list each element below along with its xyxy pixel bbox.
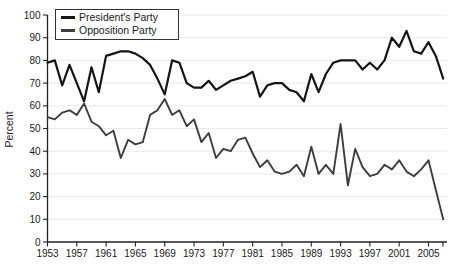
legend-label-presidents-party: President's Party (79, 11, 159, 23)
legend: President's Party Opposition Party (56, 10, 179, 40)
y-tick-label: 0 (35, 237, 41, 248)
gridlines (48, 15, 448, 219)
y-axis-tick-labels: 0102030405060708090100 (24, 10, 41, 248)
y-tick-label: 80 (29, 55, 41, 66)
x-tick-label: 1953 (36, 248, 59, 259)
x-tick-label: 2005 (417, 248, 440, 259)
y-tick-label: 40 (29, 146, 41, 157)
y-tick-label: 70 (29, 78, 41, 89)
x-tick-label: 1961 (95, 248, 118, 259)
y-tick-label: 60 (29, 100, 41, 111)
x-tick-label: 1973 (183, 248, 206, 259)
x-tick-label: 2001 (388, 248, 411, 259)
y-axis-title: Percent (3, 111, 15, 147)
y-tick-label: 90 (29, 32, 41, 43)
x-tick-label: 1989 (300, 248, 323, 259)
y-tick-label: 10 (29, 214, 41, 225)
x-axis-tick-labels: 1953195719611965196919731977198119851989… (36, 248, 440, 259)
y-tick-label: 100 (24, 10, 41, 21)
opposition-partyline (48, 99, 444, 219)
y-tick-label: 30 (29, 168, 41, 179)
x-tick-label: 1981 (242, 248, 265, 259)
line-chart: 0102030405060708090100 19531957196119651… (0, 0, 449, 265)
y-tick-label: 20 (29, 191, 41, 202)
x-tick-label: 1997 (359, 248, 382, 259)
legend-label-opposition-party: Opposition Party (79, 24, 157, 36)
x-tick-label: 1993 (329, 248, 352, 259)
y-tick-label: 50 (29, 123, 41, 134)
president-s-partyline (48, 31, 444, 101)
data-series-lines (48, 31, 444, 219)
x-tick-label: 1969 (154, 248, 177, 259)
chart-canvas: 0102030405060708090100 19531957196119651… (0, 0, 449, 265)
x-tick-label: 1965 (124, 248, 147, 259)
x-tick-label: 1985 (271, 248, 294, 259)
x-tick-label: 1977 (212, 248, 235, 259)
x-tick-label: 1957 (66, 248, 89, 259)
